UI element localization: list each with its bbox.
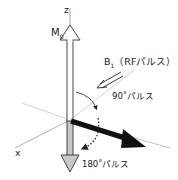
rotation-arc-90: [76, 92, 96, 108]
m0-label: M0: [51, 28, 63, 40]
rotation-arc-180: [84, 118, 99, 148]
m0-label-main: M: [51, 27, 60, 38]
ninety-pulse-label: 90˚パルス: [112, 92, 154, 101]
m0-label-sub: 0: [60, 33, 64, 40]
vector-90-arrow: [71, 121, 146, 148]
x-axis-label: x: [15, 149, 20, 158]
one-eighty-pulse-label: 180˚パルス: [82, 160, 129, 169]
diagram-canvas: [0, 0, 178, 180]
x-axis-back-line: [22, 103, 70, 120]
mri-pulse-diagram: z x M0 B1（RFパルス） 90˚パルス 180˚パルス: [0, 0, 178, 180]
b1-rf-arrow: [97, 72, 123, 88]
b1-label: B1（RFパルス）: [104, 57, 176, 69]
x-axis-line: [15, 120, 70, 148]
z-axis-label: z: [64, 6, 69, 15]
vector-180-arrow: [61, 120, 79, 172]
b1-label-rest: （RFパルス）: [114, 56, 176, 67]
